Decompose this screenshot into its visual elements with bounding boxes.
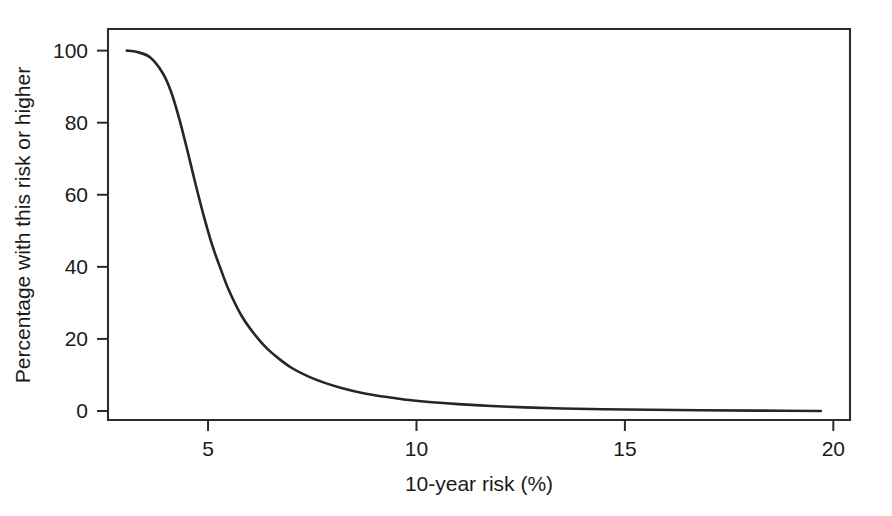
y-tick-label-0: 0 <box>76 399 88 422</box>
x-tick-label-5: 5 <box>202 437 214 460</box>
y-tick-label-80: 80 <box>65 111 88 134</box>
y-axis-title: Percentage with this risk or higher <box>11 67 34 383</box>
y-tick-label-60: 60 <box>65 183 88 206</box>
figure-container: 020406080100 5101520 10-year risk (%) Pe… <box>0 0 892 516</box>
plot-frame <box>108 29 850 420</box>
x-tick-label-20: 20 <box>822 437 845 460</box>
y-axis-ticks <box>97 51 108 411</box>
x-axis-ticks <box>208 420 833 431</box>
x-tick-label-10: 10 <box>405 437 428 460</box>
y-tick-label-20: 20 <box>65 327 88 350</box>
x-tick-label-15: 15 <box>613 437 636 460</box>
x-axis-tick-labels: 5101520 <box>202 437 845 460</box>
y-tick-label-40: 40 <box>65 255 88 278</box>
x-axis-title: 10-year risk (%) <box>405 472 553 495</box>
y-tick-label-100: 100 <box>53 39 88 62</box>
y-axis-tick-labels: 020406080100 <box>53 39 88 422</box>
risk-distribution-curve <box>127 51 821 411</box>
chart-canvas: 020406080100 5101520 10-year risk (%) Pe… <box>0 0 892 516</box>
